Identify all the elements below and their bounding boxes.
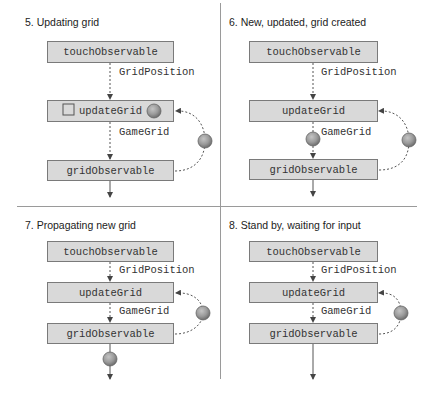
edge-label-game-grid: GameGrid <box>321 126 371 138</box>
edge-label-game-grid: GameGrid <box>119 126 169 138</box>
panel-title: 8. Stand by, waiting for input <box>229 219 361 231</box>
update-grid-label: updateGrid <box>79 105 142 117</box>
edge-label-grid-position: GridPosition <box>321 66 397 78</box>
touch-observable-box: touchObservable <box>47 41 174 63</box>
grid-observable-box: gridObservable <box>47 323 174 344</box>
panel-step-5: 5. Updating grid touchObservable GridPos… <box>0 0 220 206</box>
grid-observable-box: gridObservable <box>47 160 174 181</box>
edge-label-grid-position: GridPosition <box>321 264 397 276</box>
edge-label-game-grid: GameGrid <box>321 305 371 317</box>
edge-label-grid-position: GridPosition <box>119 264 195 276</box>
panel-title: 5. Updating grid <box>25 16 99 28</box>
update-grid-box: updateGrid <box>249 100 378 122</box>
panel-step-7: 7. Propagating new grid touchObservable … <box>0 207 220 395</box>
update-grid-box: updateGrid <box>47 282 174 303</box>
touch-observable-box: touchObservable <box>47 241 174 262</box>
panel-title: 7. Propagating new grid <box>25 219 136 231</box>
edge-label-grid-position: GridPosition <box>119 66 195 78</box>
grid-observable-box: gridObservable <box>249 323 378 344</box>
update-grid-box: updateGrid <box>249 282 378 303</box>
update-grid-box: updateGrid <box>47 100 174 122</box>
touch-observable-box: touchObservable <box>249 241 378 262</box>
panel-title: 6. New, updated, grid created <box>229 16 366 28</box>
panel-step-8: 8. Stand by, waiting for input touchObse… <box>221 207 429 395</box>
edge-label-game-grid: GameGrid <box>119 305 169 317</box>
panel-step-6: 6. New, updated, grid created touchObser… <box>221 0 429 206</box>
grid-observable-box: gridObservable <box>249 159 378 180</box>
touch-observable-box: touchObservable <box>249 41 378 63</box>
